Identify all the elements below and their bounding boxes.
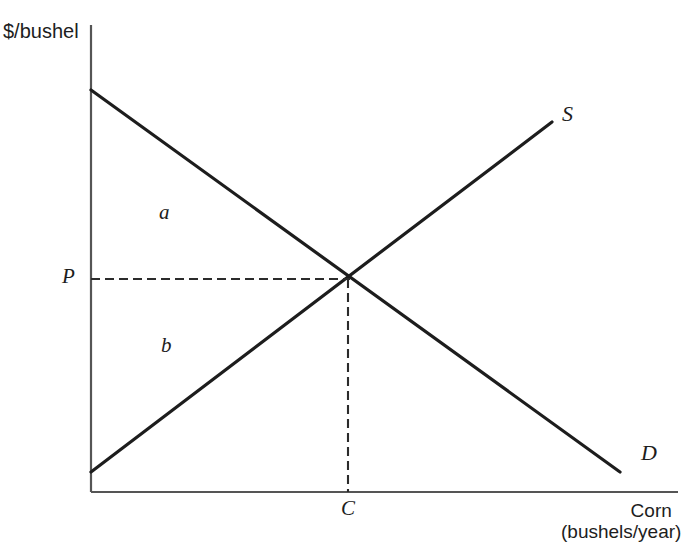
x-axis-title: Corn(bushels/year) [621, 500, 681, 543]
demand-curve [91, 90, 620, 472]
supply-demand-figure: $/bushel Corn(bushels/year) S D a b P C [0, 0, 691, 556]
supply-curve-label: S [562, 102, 573, 127]
x-axis-title-line1: Corn [631, 500, 672, 521]
x-axis-title-line2: (bushels/year) [561, 521, 681, 542]
plot-area [0, 0, 691, 556]
equilibrium-price-label: P [62, 265, 75, 289]
supply-curve [91, 122, 552, 472]
y-axis-title: $/bushel [3, 20, 79, 42]
region-b-label: b [161, 334, 172, 358]
region-a-label: a [159, 201, 170, 225]
demand-curve-label: D [641, 441, 657, 466]
equilibrium-quantity-label: C [341, 497, 355, 521]
